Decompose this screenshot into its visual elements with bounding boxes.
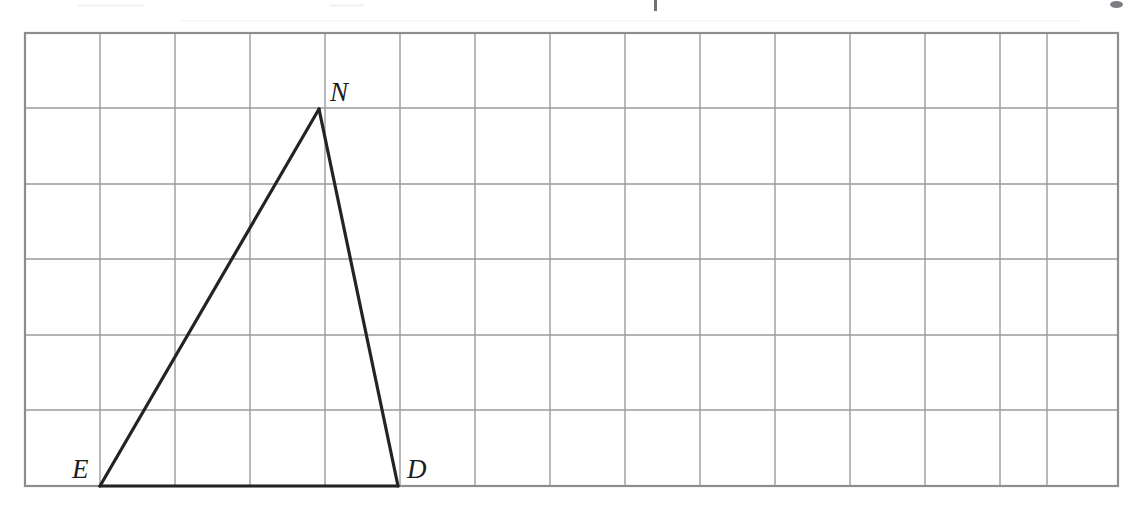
edge-ND	[319, 109, 398, 486]
edge-EN	[100, 109, 319, 486]
vertex-label-D: D	[406, 454, 427, 484]
grid-horizontal-lines	[25, 33, 1118, 486]
triangle-grid-svg: END	[0, 0, 1142, 512]
figure-container: END	[0, 0, 1142, 512]
triangle-edges	[100, 109, 398, 486]
scan-artifact-blob	[1110, 1, 1123, 8]
vertex-label-N: N	[329, 77, 350, 107]
vertex-labels: END	[71, 77, 427, 484]
scan-artifact-smudge-band	[180, 20, 1080, 22]
scan-artifact-tick	[654, 0, 657, 11]
scan-artifact-smudge-left	[78, 4, 144, 7]
scan-artifact-smudge-mid	[330, 4, 364, 7]
vertex-label-E: E	[71, 454, 89, 484]
